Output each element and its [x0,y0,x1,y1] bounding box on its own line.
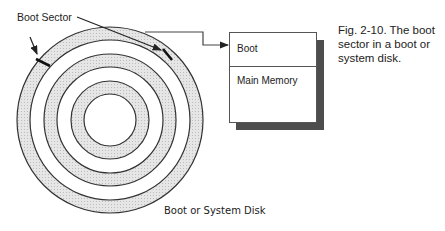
figure-caption-line-2: sector in a boot or [338,37,443,51]
disk [17,27,203,213]
figure-caption-line-1: Fig. 2-10. The boot [338,23,443,37]
memory-boot-label: Boot [237,43,258,54]
memory-main-label: Main Memory [237,75,298,86]
main-memory-box: Boot Main Memory [229,32,317,123]
disk-caption: Boot or System Disk [164,205,266,216]
disk-hub [84,94,136,146]
boot-sector-label: Boot Sector [17,11,72,23]
boot-sector-arrow-short [30,37,37,54]
figure-caption: Fig. 2-10. The boot sector in a boot or … [338,23,443,65]
memory-row-boot: Boot [230,33,316,67]
figure-caption-line-3: system disk. [338,51,443,65]
